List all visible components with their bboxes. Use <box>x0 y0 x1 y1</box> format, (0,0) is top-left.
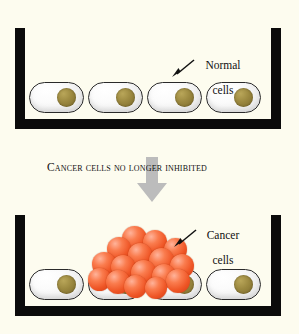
cancer-cells-label: Cancer cells <box>192 216 254 266</box>
cancer-cells-pointer-arrow-icon <box>172 228 198 248</box>
cancer-cells-label-line1: Cancer <box>207 229 240 241</box>
normal-cell <box>88 82 143 113</box>
normal-cell <box>29 82 84 113</box>
dish-wall-right <box>271 28 281 129</box>
normal-cells-label-line2: cells <box>212 84 233 96</box>
normal-cells-label: Normal cells <box>192 46 254 96</box>
cancer-cell <box>145 277 167 299</box>
dish-wall-left <box>15 215 25 316</box>
dish-wall-left <box>15 28 25 129</box>
normal-cells-label-line1: Normal <box>205 59 240 71</box>
cell-nucleus <box>116 88 135 107</box>
cell-contact-inhibition-figure: Normal cells Cancer cells no longer inhi… <box>0 0 299 334</box>
cell-nucleus <box>57 88 76 107</box>
normal-cell <box>206 269 261 300</box>
cell-nucleus <box>57 275 76 294</box>
dish-wall-right <box>271 215 281 316</box>
normal-cell <box>29 269 84 300</box>
dish-wall-bottom <box>15 306 281 316</box>
transition-caption: Cancer cells no longer inhibited <box>47 161 207 173</box>
dish-wall-bottom <box>15 119 281 129</box>
cancer-cells-label-line2: cells <box>212 254 233 266</box>
normal-cells-pointer-arrow-icon <box>170 58 196 78</box>
cell-nucleus <box>234 275 253 294</box>
cancer-cell <box>124 275 147 298</box>
cancer-cell <box>166 269 190 293</box>
